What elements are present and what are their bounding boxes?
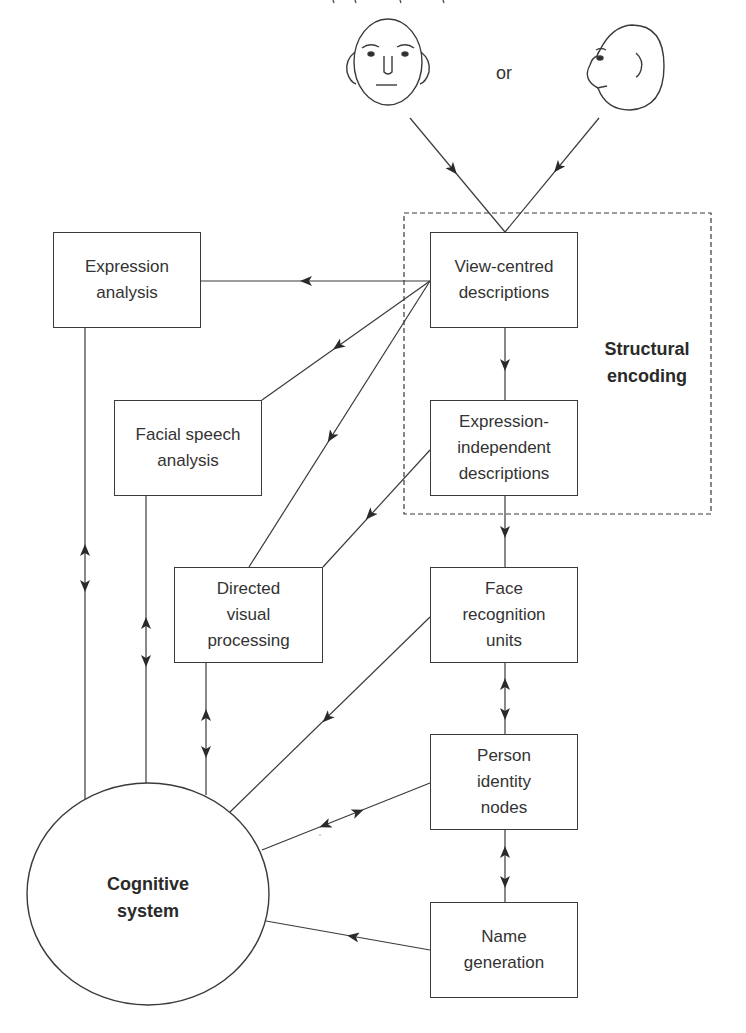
view-centred-label: View-centred descriptions xyxy=(455,254,554,306)
cognitive-system-label: Cognitive system xyxy=(88,871,208,925)
face-recognition-units-node: Face recognition units xyxy=(430,567,578,663)
directed-visual-processing-node: Directed visual processing xyxy=(174,567,323,663)
facial-speech-label: Facial speech analysis xyxy=(136,422,241,474)
or-label: or xyxy=(496,63,512,84)
structural-encoding-label: Structural encoding xyxy=(592,336,702,390)
directed-visual-label: Directed visual processing xyxy=(207,576,289,654)
person-identity-nodes-node: Person identity nodes xyxy=(430,734,578,830)
person-identity-label: Person identity nodes xyxy=(477,743,531,821)
expression-independent-label: Expression- independent descriptions xyxy=(457,409,551,487)
face-recognition-label: Face recognition units xyxy=(462,576,545,654)
clipped-title-descenders xyxy=(333,0,444,3)
expression-analysis-label: Expression analysis xyxy=(85,254,169,306)
expression-independent-descriptions-node: Expression- independent descriptions xyxy=(430,400,578,496)
profile-face-arrow xyxy=(505,118,599,232)
facial-speech-analysis-node: Facial speech analysis xyxy=(114,400,262,496)
name-generation-node: Name generation xyxy=(430,902,578,998)
view-centred-descriptions-node: View-centred descriptions xyxy=(430,232,578,328)
front-face-icon xyxy=(347,19,430,105)
profile-face-icon xyxy=(587,25,664,110)
name-generation-label: Name generation xyxy=(464,924,544,976)
expression-analysis-node: Expression analysis xyxy=(53,232,201,328)
front-face-arrow xyxy=(410,118,505,232)
